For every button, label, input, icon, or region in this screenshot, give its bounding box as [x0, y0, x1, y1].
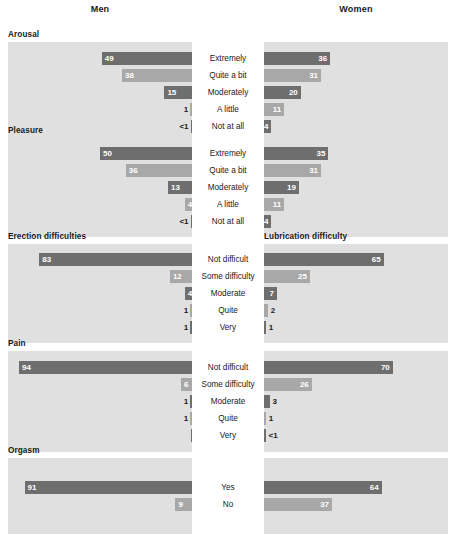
chart-row: 1Very1	[0, 319, 456, 336]
bar-value-women: 37	[320, 498, 329, 511]
category-label: Moderately	[192, 179, 264, 196]
bar-women: 4	[264, 215, 271, 228]
bar-women: 26	[264, 378, 312, 391]
bar-group-men: 1	[8, 393, 192, 410]
bar-group-men: 83	[8, 251, 192, 268]
bar-group-women: 2	[264, 302, 448, 319]
bar-value-men: <1	[179, 120, 188, 133]
rows: 94Not difficult706Some difficulty261Mode…	[0, 359, 456, 444]
bar-men: 12	[170, 270, 192, 283]
bar-women: 1	[264, 412, 266, 425]
bar-women: 11	[264, 198, 284, 211]
bar-group-men: 4	[8, 196, 192, 213]
category-label: Very	[192, 427, 264, 444]
chart-row: 1Quite2	[0, 302, 456, 319]
bar-group-women: 35	[264, 145, 448, 162]
category-label: Yes	[192, 479, 264, 496]
bar-women: 20	[264, 86, 301, 99]
bar-group-men: 6	[8, 376, 192, 393]
bar-group-women: 11	[264, 196, 448, 213]
chart-row: 91Yes64	[0, 479, 456, 496]
chart-row: 1A little11	[0, 101, 456, 118]
category-label: A little	[192, 196, 264, 213]
bar-group-women: 3	[264, 393, 448, 410]
column-header-women: Women	[296, 4, 416, 14]
bar-men: 91	[25, 481, 192, 494]
category-label: Very	[192, 319, 264, 336]
category-label: Quite	[192, 302, 264, 319]
bar-value-men: 36	[129, 164, 138, 177]
bar-group-men: 9	[8, 496, 192, 513]
bar-men: 9	[175, 498, 192, 511]
bar-value-men: 15	[167, 86, 176, 99]
bar-value-women: 31	[309, 69, 318, 82]
bar-group-women: 36	[264, 50, 448, 67]
chart-row: 9No37	[0, 496, 456, 513]
bar-men: 94	[19, 361, 192, 374]
section-title-left: Erection difficulties	[8, 232, 86, 241]
bar-value-men: 1	[184, 412, 188, 425]
bar-men: 36	[126, 164, 192, 177]
rows: 49Extremely3638Quite a bit3115Moderately…	[0, 50, 456, 135]
bar-value-men: 12	[173, 270, 182, 283]
category-label: Moderate	[192, 285, 264, 302]
section-title-left: Pain	[8, 339, 26, 348]
bar-group-women: 37	[264, 496, 448, 513]
chart-row: 94Not difficult70	[0, 359, 456, 376]
column-header-men: Men	[40, 4, 160, 14]
bar-group-men: 50	[8, 145, 192, 162]
bar-value-men: 38	[125, 69, 134, 82]
chart-row: 4Moderate7	[0, 285, 456, 302]
section-title-left: Orgasm	[8, 446, 40, 455]
bar-women: 70	[264, 361, 393, 374]
bar-men: 50	[100, 147, 192, 160]
bar-value-women: 11	[273, 198, 281, 211]
bar-men: 49	[102, 52, 192, 65]
bar-value-women: 70	[381, 361, 390, 374]
bar-women: 25	[264, 270, 310, 283]
section-title-left: Arousal	[8, 30, 39, 39]
bar-group-men: 15	[8, 84, 192, 101]
bar-value-men: 9	[178, 498, 182, 511]
bar-men: 83	[39, 253, 192, 266]
bar-group-women: 64	[264, 479, 448, 496]
category-label: Not at all	[192, 213, 264, 230]
category-label: A little	[192, 101, 264, 118]
section-title-right: Lubrication difficulty	[264, 232, 347, 241]
bar-value-men: 1	[184, 304, 188, 317]
bar-group-men: <1	[8, 213, 192, 230]
bar-group-women: 20	[264, 84, 448, 101]
bar-value-women: 11	[273, 103, 281, 116]
chart-row: 12Some difficulty25	[0, 268, 456, 285]
category-label: Quite	[192, 410, 264, 427]
bar-value-men: 6	[184, 378, 188, 391]
bar-value-men: 94	[22, 361, 31, 374]
chart-row: 4A little11	[0, 196, 456, 213]
chart-row: 50Extremely35	[0, 145, 456, 162]
category-label: Some difficulty	[192, 376, 264, 393]
bar-group-men: 94	[8, 359, 192, 376]
bar-group-women: 70	[264, 359, 448, 376]
category-label: Extremely	[192, 145, 264, 162]
bar-women: 1	[264, 321, 266, 334]
chart-row: 1Moderate3	[0, 393, 456, 410]
chart-row: <1Not at all4	[0, 118, 456, 135]
sexual-function-comparison-chart: Men Women Arousal49Extremely3638Quite a …	[0, 0, 456, 549]
bar-group-men: 91	[8, 479, 192, 496]
chart-row: 6Some difficulty26	[0, 376, 456, 393]
bar-group-men: 1	[8, 101, 192, 118]
bar-value-men: 13	[171, 181, 180, 194]
bar-group-men: 12	[8, 268, 192, 285]
bar-group-women: 1	[264, 410, 448, 427]
category-label: Some difficulty	[192, 268, 264, 285]
chart-row: 13Moderately19	[0, 179, 456, 196]
bar-men: 38	[122, 69, 192, 82]
bar-group-women: 25	[264, 268, 448, 285]
bar-value-women: <1	[269, 429, 278, 442]
bar-value-women: 20	[289, 86, 298, 99]
chart-row: 36Quite a bit31	[0, 162, 456, 179]
bar-group-women: 7	[264, 285, 448, 302]
rows: 50Extremely3536Quite a bit3113Moderately…	[0, 145, 456, 230]
bar-value-men: 91	[28, 481, 37, 494]
bar-group-women: 26	[264, 376, 448, 393]
